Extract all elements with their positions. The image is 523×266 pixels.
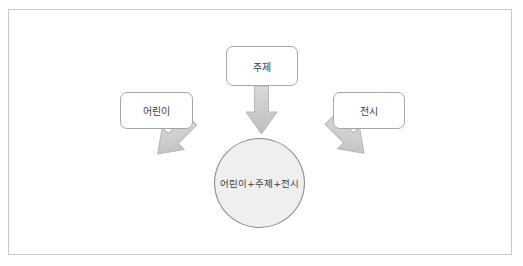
- node-box-subject[interactable]: 주제: [226, 46, 298, 86]
- node-label-exhibition: 전시: [360, 103, 378, 118]
- arrow-subject-to-result: [246, 86, 277, 134]
- convergence-diagram: 어린이 주제 전시 어린이+주제+전시: [0, 0, 523, 266]
- node-label-children: 어린이: [143, 103, 171, 118]
- result-circle-label: 어린이+주제+전시: [220, 176, 300, 190]
- node-box-exhibition[interactable]: 전시: [333, 92, 405, 129]
- diagram-canvas: 어린이 주제 전시 어린이+주제+전시: [0, 0, 523, 266]
- result-circle[interactable]: 어린이+주제+전시: [214, 138, 305, 228]
- node-box-children[interactable]: 어린이: [120, 92, 193, 129]
- node-label-subject: 주제: [253, 59, 271, 74]
